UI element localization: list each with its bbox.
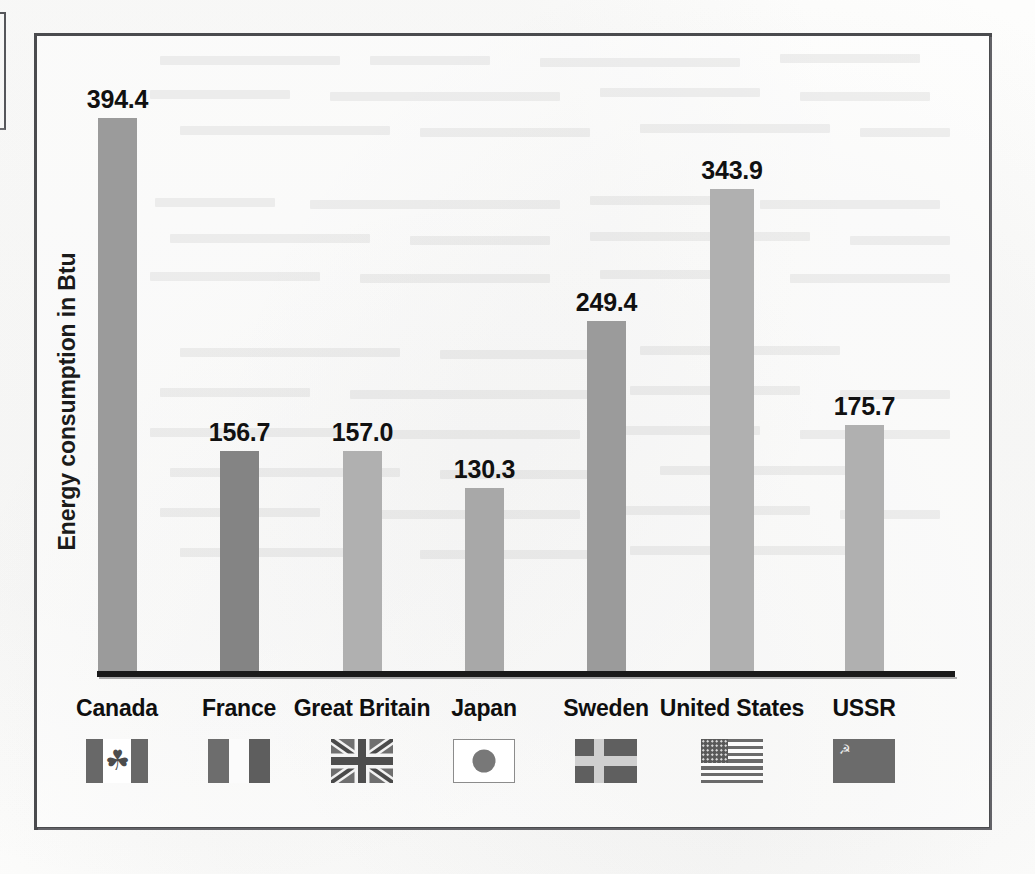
bar-value-france: 156.7 [209, 418, 271, 447]
sweden-cross-horizontal [575, 756, 637, 766]
flag-canada-band-right [131, 739, 148, 783]
scanned-figure-page: Energy consumption in Btu 394.4 Canada ☘… [0, 0, 1035, 874]
x-axis-baseline [97, 671, 955, 677]
flag-ussr-icon: ☭ [833, 739, 895, 783]
category-label-canada: Canada [76, 695, 158, 722]
category-label-great-britain: Great Britain [294, 695, 431, 722]
bar-ussr[interactable] [845, 425, 884, 671]
flag-canada-icon: ☘ [86, 739, 148, 783]
flag-canada-band-left [86, 739, 103, 783]
flag-france-band-right [249, 739, 270, 783]
flag-great-britain-icon [331, 739, 393, 783]
usa-star-canton [701, 739, 728, 763]
maple-leaf-icon: ☘ [105, 747, 130, 775]
bar-canada[interactable] [98, 118, 137, 671]
category-label-japan: Japan [451, 695, 516, 722]
bar-value-sweden: 249.4 [576, 288, 638, 317]
bar-france[interactable] [220, 451, 259, 671]
flag-france-band-left [208, 739, 229, 783]
flag-japan-icon [453, 739, 515, 783]
bar-japan[interactable] [465, 488, 504, 671]
y-axis-title: Energy consumption in Btu [54, 237, 81, 567]
flag-france-icon [208, 739, 270, 783]
flag-france-band-middle [229, 739, 250, 783]
category-label-sweden: Sweden [563, 695, 649, 722]
union-jack-cross-horizontal-inner [331, 757, 393, 765]
bar-chart-plot-area: Energy consumption in Btu 394.4 Canada ☘… [34, 33, 992, 830]
bar-value-ussr: 175.7 [834, 392, 896, 421]
bar-value-canada: 394.4 [87, 85, 149, 114]
flag-sweden-icon [575, 739, 637, 783]
category-label-france: France [202, 695, 276, 722]
category-label-ussr: USSR [832, 695, 895, 722]
flag-united-states-icon [701, 739, 763, 783]
bar-great-britain[interactable] [343, 451, 382, 671]
bar-value-united-states: 343.9 [701, 156, 763, 185]
hammer-and-sickle-icon: ☭ [839, 743, 851, 756]
japan-sun-disc [473, 750, 496, 773]
category-label-united-states: United States [660, 695, 804, 722]
bar-value-japan: 130.3 [454, 455, 516, 484]
bar-sweden[interactable] [587, 321, 626, 671]
page-edge-artifact [0, 12, 6, 130]
bar-united-states[interactable] [710, 189, 754, 671]
bar-value-great-britain: 157.0 [332, 418, 394, 447]
